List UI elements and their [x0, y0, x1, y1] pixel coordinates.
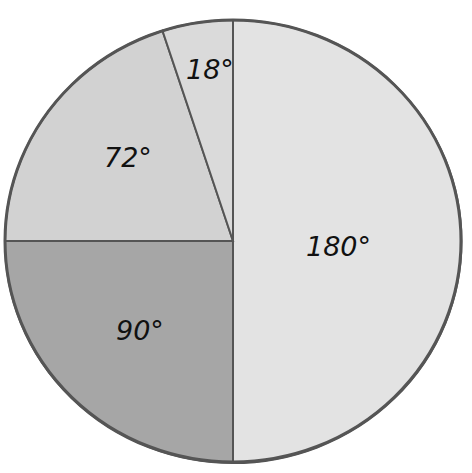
pie-chart: 180° 90° 72° 18°: [0, 0, 472, 473]
label-72: 72°: [104, 142, 152, 173]
label-90: 90°: [116, 315, 164, 346]
label-180: 180°: [306, 231, 371, 262]
label-18: 18°: [186, 54, 234, 85]
pie-slice-90: [5, 241, 233, 463]
